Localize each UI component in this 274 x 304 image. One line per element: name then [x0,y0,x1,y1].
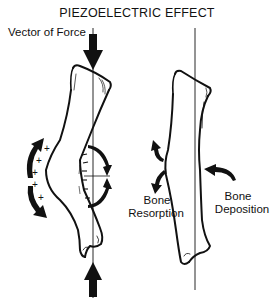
svg-text:+: + [38,192,44,203]
diagram-canvas: + + + + + [0,0,274,304]
curved-arrow-concave-bottom-icon [88,178,112,208]
svg-text:+: + [32,167,38,178]
resorption-arrow-down-icon [151,170,166,194]
resorption-arrow-up-icon [151,140,164,162]
svg-text:+: + [44,143,50,154]
force-arrow-up-icon [84,262,102,297]
force-arrow-down-icon [83,34,103,70]
deposition-arrow-icon [204,164,236,181]
curved-arrow-concave-top-icon [88,145,112,176]
remodeled-bone-right [165,71,210,264]
svg-text:+: + [36,155,42,166]
bent-bone-left [46,65,111,257]
svg-text:+: + [32,179,38,190]
